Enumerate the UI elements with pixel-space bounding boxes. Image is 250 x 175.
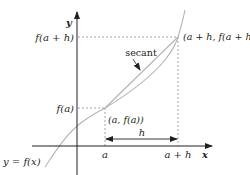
tick-label-f-a: f(a) [56, 103, 75, 114]
tick-label-a: a [102, 149, 108, 160]
point-label-a-fa: (a, f(a)) [108, 114, 144, 125]
y-axis-label: y [65, 17, 73, 28]
secant-label: secant [125, 47, 157, 58]
tick-label-a-plus-h: a + h [164, 149, 191, 160]
curve-label: y = f(x) [2, 156, 41, 167]
secant-pointer-arrow [133, 59, 140, 70]
x-axis-label: x [201, 149, 209, 160]
tick-label-f-a-plus-h: f(a + h) [34, 32, 74, 43]
interval-label-h: h [139, 127, 145, 138]
point-label-a-plus-h: (a + h, f(a + h) [183, 31, 250, 42]
secant-diagram: y x f(a + h) f(a) a a + h h secant (a, f… [0, 0, 250, 175]
